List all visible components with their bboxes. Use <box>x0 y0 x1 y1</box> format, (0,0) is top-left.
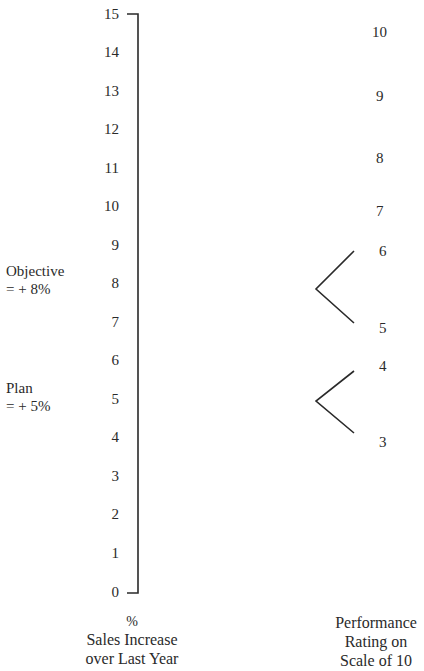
objective-value: = + 8% <box>6 281 50 298</box>
tick-1: 1 <box>89 544 119 562</box>
objective-connector <box>316 251 354 323</box>
rating-7: 7 <box>376 202 384 220</box>
right-caption-line3: Scale of 10 <box>322 651 424 670</box>
scale-lines <box>0 0 424 671</box>
plan-connector <box>316 371 354 433</box>
rating-5: 5 <box>379 319 387 337</box>
plan-label: Plan <box>6 380 33 397</box>
tick-2: 2 <box>89 505 119 523</box>
left-caption-line2: over Last Year <box>62 649 202 668</box>
rating-4: 4 <box>379 357 387 375</box>
tick-6: 6 <box>89 351 119 369</box>
left-caption-line1: Sales Increase <box>62 630 202 649</box>
objective-label: Objective <box>6 263 64 280</box>
tick-0: 0 <box>89 583 119 601</box>
tick-10: 10 <box>89 197 119 215</box>
tick-13: 13 <box>89 82 119 100</box>
left-axis-line <box>127 14 138 593</box>
tick-12: 12 <box>89 120 119 138</box>
tick-9: 9 <box>89 236 119 254</box>
tick-15: 15 <box>89 5 119 23</box>
tick-14: 14 <box>89 43 119 61</box>
tick-8: 8 <box>89 274 119 292</box>
tick-3: 3 <box>89 467 119 485</box>
right-caption-line1: Performance <box>322 613 424 632</box>
plan-value: = + 5% <box>6 398 50 415</box>
tick-7: 7 <box>89 313 119 331</box>
rating-9: 9 <box>376 87 384 105</box>
tick-11: 11 <box>89 159 119 177</box>
left-unit: % <box>62 612 202 631</box>
right-caption-line2: Rating on <box>322 632 424 651</box>
rating-10: 10 <box>372 23 387 41</box>
rating-6: 6 <box>379 242 387 260</box>
tick-5: 5 <box>89 390 119 408</box>
tick-4: 4 <box>89 428 119 446</box>
rating-8: 8 <box>376 149 384 167</box>
rating-3: 3 <box>379 433 387 451</box>
